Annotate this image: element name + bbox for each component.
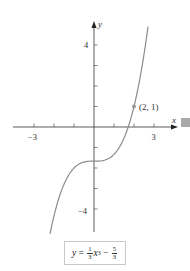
y-tick-label-4: 4	[84, 40, 89, 50]
fraction-one-third: 1 3	[87, 246, 92, 260]
axes	[13, 21, 178, 232]
y-tick-label-neg4: −4	[78, 206, 88, 216]
y-axis-arrow-icon	[92, 21, 97, 28]
equation-box: y = 1 3 x3 − 5 3	[64, 241, 126, 265]
point-label: (2, 1)	[139, 102, 159, 112]
fraction-five-thirds: 5 3	[112, 246, 117, 260]
end-marker-square	[181, 118, 190, 127]
x-axis-label: x	[171, 115, 176, 125]
equation-equals: =	[76, 248, 86, 258]
function-plot: x y −3 3 4 −4 (2, 1)	[0, 0, 190, 271]
point-2-1	[132, 105, 136, 109]
cubic-curve	[50, 27, 148, 234]
y-axis-label: y	[97, 19, 102, 29]
x-tick-label-neg3: −3	[28, 132, 37, 142]
equation-minus: −	[101, 248, 111, 258]
fraction-denominator: 3	[112, 254, 117, 261]
x-axis-arrow-icon	[171, 125, 178, 130]
fraction-denominator: 3	[87, 254, 92, 261]
x-tick-label-3: 3	[152, 132, 156, 142]
